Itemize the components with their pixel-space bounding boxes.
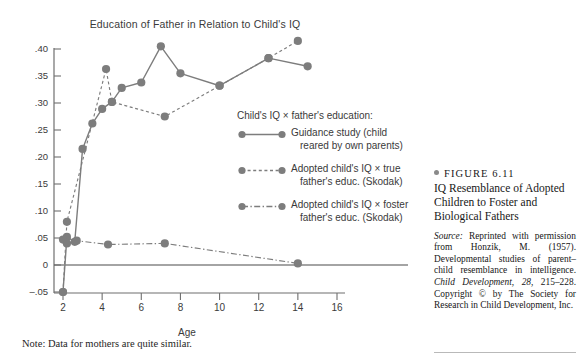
source-label: Source:	[434, 231, 463, 241]
x-axis-title: Age	[178, 327, 196, 338]
data-point[interactable]	[102, 65, 110, 73]
legend-item[interactable]: Adopted child's IQ × truefather's educ. …	[237, 163, 409, 189]
y-tick-label: 0	[18, 259, 48, 270]
data-point[interactable]	[73, 237, 81, 245]
x-tick-label: 8	[170, 302, 190, 313]
figure-source: Source: Reprinted with permission from H…	[434, 231, 576, 312]
data-point[interactable]	[108, 98, 116, 106]
legend-title: Child's IQ × father's education:	[237, 110, 409, 121]
data-point[interactable]	[63, 218, 71, 226]
data-point[interactable]	[215, 82, 223, 90]
data-point[interactable]	[304, 62, 312, 70]
caption-divider	[434, 352, 576, 353]
x-tick-label: 2	[53, 302, 73, 313]
y-tick-label: .15	[18, 178, 48, 189]
y-tick-label: –.05	[18, 286, 48, 297]
data-point[interactable]	[157, 42, 165, 50]
y-tick-label: .35	[18, 70, 48, 81]
figure-label: FIGURE 6.11	[444, 168, 515, 179]
figure-page: Education of Father in Relation to Child…	[0, 0, 586, 363]
series-line	[63, 240, 298, 264]
y-tick-label: .20	[18, 151, 48, 162]
legend-item[interactable]: Adopted child's IQ × fosterfather's educ…	[237, 199, 409, 225]
figure-label-row: FIGURE 6.11	[434, 168, 576, 179]
legend-line-sample	[237, 130, 287, 139]
data-point[interactable]	[161, 112, 169, 120]
data-point[interactable]	[104, 240, 112, 248]
y-tick-label: .25	[18, 124, 48, 135]
data-point[interactable]	[161, 239, 169, 247]
figure-title: IQ Resemblance of Adopted Children to Fo…	[434, 181, 576, 224]
data-point[interactable]	[176, 69, 184, 77]
x-tick-label: 16	[327, 302, 347, 313]
x-tick-label: 6	[131, 302, 151, 313]
x-tick-label: 14	[288, 302, 308, 313]
legend-line-sample	[237, 202, 287, 211]
legend-line-sample	[237, 166, 287, 175]
source-journal: Child Development, 28,	[434, 277, 533, 287]
x-tick-label: 4	[92, 302, 112, 313]
bullet-icon	[434, 170, 439, 175]
data-point[interactable]	[118, 84, 126, 92]
legend-item[interactable]: Guidance study (childreared by own paren…	[237, 127, 409, 153]
data-point[interactable]	[137, 78, 145, 86]
data-point[interactable]	[98, 105, 106, 113]
legend-item-label: Adopted child's IQ × truefather's educ. …	[291, 163, 409, 188]
chart-note: Note: Data for mothers are quite similar…	[22, 338, 192, 349]
x-tick-label: 10	[210, 302, 230, 313]
y-tick-label: .30	[18, 97, 48, 108]
data-point[interactable]	[63, 239, 71, 247]
data-point[interactable]	[264, 54, 272, 62]
legend-item-label: Adopted child's IQ × fosterfather's educ…	[291, 199, 409, 224]
legend-item-label: Guidance study (childreared by own paren…	[291, 127, 409, 152]
y-tick-label: .10	[18, 205, 48, 216]
data-point[interactable]	[59, 288, 67, 296]
figure-caption: FIGURE 6.11 IQ Resemblance of Adopted Ch…	[434, 168, 576, 312]
x-tick-label: 12	[249, 302, 269, 313]
y-tick-label: .40	[18, 43, 48, 54]
chart-legend: Child's IQ × father's education: Guidanc…	[237, 110, 409, 235]
chart-container: Education of Father in Relation to Child…	[0, 0, 415, 363]
data-point[interactable]	[294, 37, 302, 45]
y-tick-label: .05	[18, 232, 48, 243]
data-point[interactable]	[294, 259, 302, 267]
